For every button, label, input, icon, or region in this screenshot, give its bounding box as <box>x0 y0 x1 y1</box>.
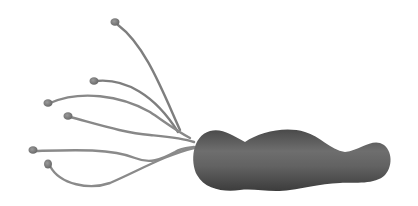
flagellum-tip-2 <box>90 77 99 85</box>
flagellum-tip-1 <box>111 18 120 26</box>
bacterium-body <box>193 130 390 191</box>
flagella <box>35 25 194 186</box>
flagella-tips <box>29 18 120 168</box>
bacterium-illustration <box>0 0 418 206</box>
bacterium-graphic <box>0 0 418 206</box>
flagellum-tip-4 <box>64 112 73 120</box>
flagellum-1 <box>118 25 180 130</box>
flagellum-tip-6 <box>44 160 52 169</box>
flagellum-5 <box>35 147 194 161</box>
flagellum-tip-5 <box>29 146 38 154</box>
flagellum-tip-3 <box>44 99 53 107</box>
